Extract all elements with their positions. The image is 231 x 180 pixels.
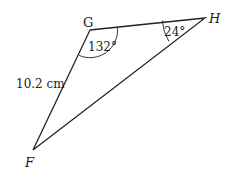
- vertex-label-h: H: [208, 11, 221, 26]
- side-label-fg: 10.2 cm: [16, 77, 65, 91]
- triangle-figure: G H F 132° 24° 10.2 cm: [0, 0, 231, 180]
- vertex-label-g: G: [83, 15, 93, 30]
- angle-label-g: 132°: [88, 40, 117, 54]
- vertex-label-f: F: [24, 155, 35, 170]
- angle-label-h: 24°: [164, 25, 185, 39]
